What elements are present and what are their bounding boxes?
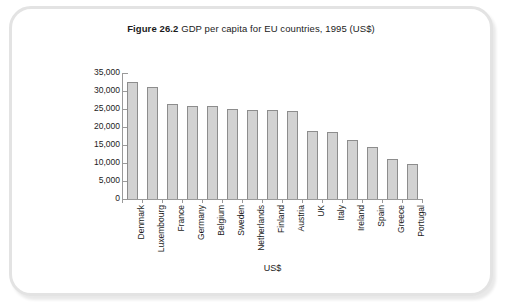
x-axis-tick-mark — [322, 199, 323, 203]
x-axis-tick-mark — [202, 199, 203, 203]
bar-slot — [402, 73, 422, 199]
bar — [227, 109, 238, 199]
x-axis-line — [122, 199, 423, 200]
x-axis-tick-mark — [282, 199, 283, 203]
bar — [307, 131, 318, 199]
x-axis-category-label: Denmark — [136, 205, 146, 239]
bar — [187, 106, 198, 199]
bar-slot — [342, 73, 362, 199]
x-axis-category-label: UK — [316, 205, 326, 217]
x-axis-category-label: Spain — [376, 205, 386, 227]
x-axis-category-label: Sweden — [236, 205, 246, 236]
x-axis-category-label: Finland — [276, 205, 286, 233]
bar — [327, 132, 338, 199]
x-axis-tick-mark — [122, 199, 123, 203]
x-axis-tick-mark — [422, 199, 423, 203]
bar-slot — [242, 73, 262, 199]
x-axis-category-label: France — [176, 205, 186, 231]
x-axis-tick-mark — [362, 199, 363, 203]
x-axis-category-label: Germany — [196, 205, 206, 240]
x-axis-tick-mark — [182, 199, 183, 203]
bar — [287, 111, 298, 199]
x-axis-category-label: Ireland — [356, 205, 366, 231]
x-axis-title: US$ — [122, 263, 423, 273]
bar-slot — [282, 73, 302, 199]
bar — [347, 140, 358, 199]
x-axis-tick-mark — [402, 199, 403, 203]
x-axis-tick-mark — [142, 199, 143, 203]
y-axis-tick-mark — [123, 199, 128, 200]
x-axis-tick-mark — [302, 199, 303, 203]
bar — [127, 82, 138, 199]
y-axis-tick-label: 30,000 — [94, 85, 120, 95]
bar — [147, 87, 158, 199]
bar-slot — [222, 73, 242, 199]
bar-slot — [382, 73, 402, 199]
x-axis-category-label: Belgium — [216, 205, 226, 236]
bar-slot — [322, 73, 342, 199]
y-axis-tick-label: 5,000 — [99, 175, 120, 185]
x-axis-category-label: Portugal — [416, 205, 426, 237]
bar — [247, 110, 258, 199]
y-axis-tick-label: 0 — [115, 193, 120, 203]
bar-slot — [302, 73, 322, 199]
figure-caption-text: GDP per capita for EU countries, 1995 (U… — [181, 23, 375, 34]
y-axis-tick-label: 25,000 — [94, 103, 120, 113]
bar-slot — [142, 73, 162, 199]
figure-number: Figure 26.2 — [127, 23, 178, 34]
x-axis-tick-mark — [262, 199, 263, 203]
bar-slot — [262, 73, 282, 199]
x-axis-category-label: Luxembourg — [156, 205, 166, 252]
y-axis-tick-label: 15,000 — [94, 139, 120, 149]
bar — [207, 106, 218, 199]
bar-slot — [122, 73, 142, 199]
x-axis-tick-mark — [222, 199, 223, 203]
bar-slot — [362, 73, 382, 199]
y-axis-tick-label: 20,000 — [94, 121, 120, 131]
y-axis-tick-label: 35,000 — [94, 67, 120, 77]
bar-slot — [182, 73, 202, 199]
y-axis-tick-label: 10,000 — [94, 157, 120, 167]
bar-slot — [162, 73, 182, 199]
figure-frame: Figure 26.2 GDP per capita for EU countr… — [9, 6, 493, 296]
x-axis-category-label: Netherlands — [256, 205, 266, 251]
x-axis-category-label: Austria — [296, 205, 306, 231]
bar — [387, 159, 398, 199]
bar — [367, 147, 378, 199]
x-axis-category-label: Greece — [396, 205, 406, 233]
bar — [407, 164, 418, 199]
x-axis-category-label: Italy — [336, 205, 346, 221]
figure-caption: Figure 26.2 GDP per capita for EU countr… — [12, 23, 490, 34]
x-axis-tick-mark — [382, 199, 383, 203]
x-axis-tick-mark — [162, 199, 163, 203]
bar-slot — [202, 73, 222, 199]
bar — [267, 110, 278, 199]
chart-plot-area: 35,00030,00025,00020,00015,00010,0005,00… — [122, 73, 422, 199]
bar — [167, 104, 178, 199]
x-axis-tick-mark — [242, 199, 243, 203]
x-axis-tick-mark — [342, 199, 343, 203]
